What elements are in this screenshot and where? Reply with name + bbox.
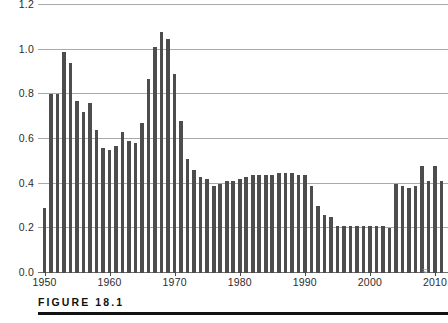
bar <box>303 175 307 273</box>
bar <box>310 186 314 273</box>
y-tick-label-0.0: 0.0 <box>0 267 34 278</box>
bar <box>147 79 151 273</box>
bar <box>355 226 359 273</box>
bar <box>251 175 255 273</box>
bar <box>323 215 327 273</box>
bar <box>186 159 190 273</box>
bar <box>433 166 437 273</box>
x-tick-label-1970: 1970 <box>155 277 195 288</box>
axis-break-icon: ≈ <box>422 266 436 276</box>
x-tick-label-1950: 1950 <box>25 277 65 288</box>
bar <box>121 132 125 273</box>
figure-caption: FIGURE 18.1 <box>38 296 448 309</box>
bar <box>82 112 86 273</box>
bar <box>336 226 340 273</box>
x-tick-label-1960: 1960 <box>90 277 130 288</box>
x-tick-label-2010: 2010 <box>415 277 448 288</box>
bar <box>179 121 183 273</box>
bar <box>375 226 379 273</box>
bar <box>270 175 274 273</box>
bar <box>88 103 92 273</box>
y-tick-label-0.2: 0.2 <box>0 222 34 233</box>
x-axis: 1950196019701980199020002010 <box>38 272 448 298</box>
bar <box>349 226 353 273</box>
bar <box>43 208 47 273</box>
bar <box>134 143 138 273</box>
bar <box>427 181 431 273</box>
bar <box>108 150 112 273</box>
bar <box>290 173 294 274</box>
bar <box>401 186 405 273</box>
bar <box>388 228 392 273</box>
x-tick-label-1990: 1990 <box>285 277 325 288</box>
bar <box>231 181 235 273</box>
y-tick-label-0.6: 0.6 <box>0 133 34 144</box>
y-tick-label-1.2: 1.2 <box>0 0 34 10</box>
bar <box>114 146 118 273</box>
bar <box>316 206 320 273</box>
plot-area <box>38 0 448 273</box>
bar <box>277 173 281 274</box>
bar <box>192 170 196 273</box>
bar <box>101 148 105 273</box>
bar <box>414 186 418 273</box>
x-tick-label-2000: 2000 <box>350 277 390 288</box>
bar <box>173 74 177 273</box>
caption-block: FIGURE 18.1 <box>38 296 448 315</box>
bar <box>420 166 424 273</box>
y-tick-label-0.4: 0.4 <box>0 178 34 189</box>
bar <box>257 175 261 273</box>
bar <box>75 101 79 273</box>
bar <box>95 130 99 273</box>
bar <box>329 217 333 273</box>
bar <box>407 188 411 273</box>
bar <box>368 226 372 273</box>
bar <box>166 39 170 274</box>
y-tick-label-0.8: 0.8 <box>0 88 34 99</box>
caption-rule <box>38 312 448 315</box>
bar <box>362 226 366 273</box>
bar <box>160 32 164 273</box>
bar <box>212 186 216 273</box>
bar <box>297 175 301 273</box>
bar <box>205 179 209 273</box>
bar <box>218 184 222 273</box>
bar <box>225 181 229 273</box>
bar <box>69 63 73 273</box>
x-tick-label-1980: 1980 <box>220 277 260 288</box>
bar <box>153 47 157 273</box>
figure-container: 0.00.20.40.60.81.01.2 195019601970198019… <box>0 0 448 323</box>
bar <box>140 123 144 273</box>
bar <box>238 179 242 273</box>
bar <box>394 184 398 273</box>
bar <box>440 181 444 273</box>
bar <box>62 52 66 273</box>
bar <box>56 94 60 273</box>
y-tick-label-1.0: 1.0 <box>0 44 34 55</box>
bar <box>244 177 248 273</box>
bar <box>49 94 53 273</box>
bar <box>284 173 288 274</box>
bar <box>381 226 385 273</box>
bar <box>127 141 131 273</box>
bar <box>199 177 203 273</box>
bar <box>342 226 346 273</box>
bar <box>264 175 268 273</box>
bars-group <box>38 0 448 273</box>
